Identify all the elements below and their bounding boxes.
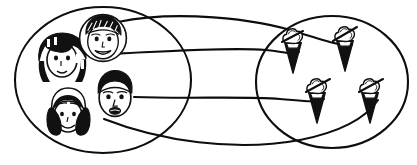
set-correspondence-figure: A left oval holds four children's faces.…	[0, 0, 417, 165]
mapping-edge-child3-cone4[interactable]	[104, 100, 378, 145]
children-set-members	[39, 15, 132, 136]
child-face-icon-2[interactable]	[80, 15, 127, 62]
mapping-edge-child4-cone3[interactable]	[134, 97, 324, 101]
cones-set-outline	[256, 16, 408, 148]
child-face-icon-3[interactable]	[47, 88, 90, 135]
figure-canvas	[0, 0, 417, 165]
child-face-icon-4[interactable]	[98, 71, 132, 117]
